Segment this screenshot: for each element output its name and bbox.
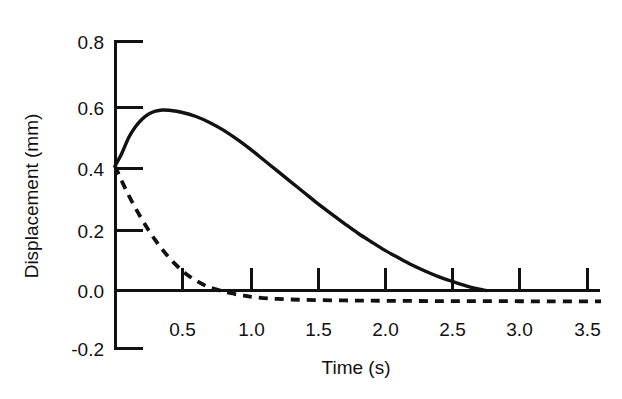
y-tick-labels: 0.8 0.6 0.4 0.2 0.0 -0.2 <box>71 32 104 360</box>
y-tick-label: 0.0 <box>78 281 104 302</box>
x-tick-marks <box>183 268 588 290</box>
y-axis-title: Displacement (mm) <box>21 114 42 279</box>
chart-figure: 0.8 0.6 0.4 0.2 0.0 -0.2 0.5 1.0 1.5 2.0… <box>0 0 622 399</box>
x-tick-label: 3.0 <box>506 319 532 340</box>
x-tick-label: 0.5 <box>169 319 195 340</box>
y-tick-label: 0.4 <box>78 159 105 180</box>
x-axis-title: Time (s) <box>322 357 391 378</box>
y-tick-label: 0.2 <box>78 221 104 242</box>
x-tick-label: 2.0 <box>372 319 398 340</box>
x-tick-label: 3.5 <box>574 319 600 340</box>
x-tick-labels: 0.5 1.0 1.5 2.0 2.5 3.0 3.5 <box>169 319 600 340</box>
chart-plot-area: 0.8 0.6 0.4 0.2 0.0 -0.2 0.5 1.0 1.5 2.0… <box>0 0 622 399</box>
y-tick-label: 0.6 <box>78 98 104 119</box>
x-tick-label: 1.5 <box>305 319 331 340</box>
y-tick-label: 0.8 <box>78 32 104 53</box>
data-series-solid <box>115 110 486 291</box>
y-tick-label: -0.2 <box>71 339 104 360</box>
x-tick-label: 2.5 <box>439 319 465 340</box>
x-tick-label: 1.0 <box>238 319 264 340</box>
